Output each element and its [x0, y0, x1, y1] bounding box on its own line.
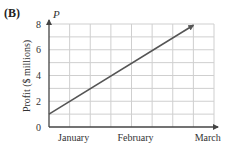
x-tick-label: March [195, 132, 221, 143]
x-tick-labels: JanuaryFebruaryMarch [58, 132, 221, 143]
x-tick-label: February [117, 132, 153, 143]
x-tick-label: January [58, 132, 89, 143]
y-tick-labels: 02468 [36, 19, 41, 133]
y-tick-label: 4 [36, 70, 41, 81]
y-tick-label: 8 [36, 19, 41, 30]
grid-lines [49, 24, 214, 127]
axes [49, 20, 218, 127]
y-tick-label: 0 [36, 122, 41, 133]
y-axis-symbol: P [52, 8, 60, 20]
y-axis-label: Profit ($ millions) [21, 40, 33, 112]
y-tick-label: 2 [36, 96, 41, 107]
line-chart: 02468 JanuaryFebruaryMarch Profit ($ mil… [0, 0, 225, 148]
y-tick-label: 6 [36, 44, 41, 55]
